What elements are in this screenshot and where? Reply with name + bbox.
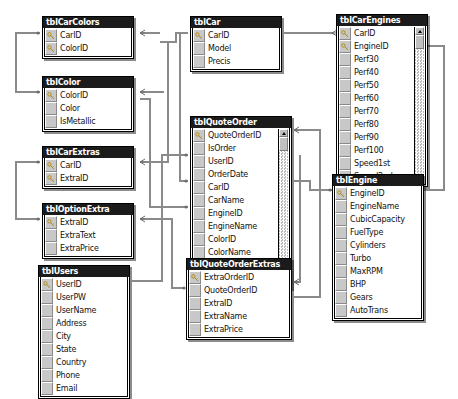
entity-field-tblUsers-UserPW[interactable]: UserPW [41,291,127,304]
entity-field-tblEngine-BHP[interactable]: BHP [335,278,421,291]
entity-field-tblColor-IsMetallic[interactable]: IsMetallic [45,115,131,128]
entity-field-tblQuoteOrderExtras-ExtraPrice[interactable]: ExtraPrice [189,323,289,336]
field-selector-gutter [41,291,53,304]
scroll-up-button[interactable] [279,129,288,137]
entity-field-tblCarEngines-Perf30[interactable]: Perf30 [339,53,415,66]
entity-field-tblQuoteOrder-UserID[interactable]: UserID [193,155,279,168]
entity-field-tblUsers-Country[interactable]: Country [41,356,127,369]
entity-field-tblOptionExtra-ExtraID[interactable]: ExtraID [45,216,131,229]
entity-field-tblEngine-EngineID[interactable]: EngineID [335,187,421,200]
entity-field-tblCarEngines-EngineID[interactable]: EngineID [339,40,415,53]
entity-field-tblUsers-Address[interactable]: Address [41,317,127,330]
entity-field-tblCarEngines-Perf60[interactable]: Perf60 [339,92,415,105]
entity-field-tblCarEngines-Perf50[interactable]: Perf50 [339,79,415,92]
entity-field-tblQuoteOrderExtras-ExtraName[interactable]: ExtraName [189,310,289,323]
entity-field-tblQuoteOrderExtras-ExtraOrderID[interactable]: ExtraOrderID [189,271,289,284]
entity-table-title-tblEngine: tblEngine [333,175,423,186]
scrollbar-track[interactable] [279,137,288,277]
entity-table-tblOptionExtra[interactable]: tblOptionExtra ExtraID ExtraText ExtraPr… [42,203,134,259]
entity-field-label-Perf60: Perf60 [354,94,379,103]
entity-field-label-Perf100: Perf100 [354,146,383,155]
entity-field-tblCar-CarID[interactable]: CarID [193,29,279,42]
entity-table-title-tblCar: tblCar [191,17,281,28]
scroll-up-button[interactable] [415,27,424,35]
entity-field-tblOptionExtra-ExtraPrice[interactable]: ExtraPrice [45,242,131,255]
entity-field-tblQuoteOrder-CarName[interactable]: CarName [193,194,279,207]
link-carextras-to-car [140,42,168,162]
entity-table-fields-tblCarEngines: CarID EngineID Perf30 Perf40 Perf50 Perf… [338,26,426,185]
entity-field-tblEngine-EngineName[interactable]: EngineName [335,200,421,213]
entity-table-tblUsers[interactable]: tblUsers UserID UserPW UserName Address … [38,265,130,399]
field-selector-gutter [193,220,205,233]
entity-field-tblEngine-MaxRPM[interactable]: MaxRPM [335,265,421,278]
entity-field-tblUsers-UserID[interactable]: UserID [41,278,127,291]
scrollbar-thumb[interactable] [415,35,424,49]
entity-table-title-tblUsers: tblUsers [39,266,129,277]
link-car-carcolors-left [16,33,40,92]
entity-field-tblColor-Color[interactable]: Color [45,102,131,115]
entity-field-tblUsers-State[interactable]: State [41,343,127,356]
entity-field-tblUsers-UserName[interactable]: UserName [41,304,127,317]
entity-table-tblColor[interactable]: tblColor ColorID Color IsMetallic [42,76,134,132]
entity-field-label-ExtraID: ExtraID [60,218,88,227]
entity-field-tblCarExtras-CarID[interactable]: CarID [45,159,131,172]
entity-table-tblCarColors[interactable]: tblCarColors CarID ColorID [42,16,134,59]
entity-field-tblEngine-Cylinders[interactable]: Cylinders [335,239,421,252]
entity-field-tblQuoteOrder-OrderDate[interactable]: OrderDate [193,168,279,181]
entity-field-tblQuoteOrder-CarID[interactable]: CarID [193,181,279,194]
primary-key-icon [191,274,199,282]
entity-field-tblCarEngines-Perf40[interactable]: Perf40 [339,66,415,79]
entity-field-tblUsers-City[interactable]: City [41,330,127,343]
entity-field-tblCarExtras-ExtraID[interactable]: ExtraID [45,172,131,185]
field-selector-gutter [193,142,205,155]
entity-field-tblQuoteOrderExtras-ExtraID[interactable]: ExtraID [189,297,289,310]
entity-field-label-State: State [56,345,76,354]
entity-field-label-UserID: UserID [208,157,234,166]
scrollbar-track[interactable] [415,35,424,175]
entity-field-tblCar-Model[interactable]: Model [193,42,279,55]
primary-key-icon [43,281,51,289]
entity-field-tblEngine-Gears[interactable]: Gears [335,291,421,304]
field-selector-gutter [335,278,347,291]
scrollbar-thumb[interactable] [279,137,288,151]
entity-field-tblQuoteOrderExtras-QuoteOrderID[interactable]: QuoteOrderID [189,284,289,297]
chevron-up-icon [282,132,286,135]
entity-field-tblCar-Precis[interactable]: Precis [193,55,279,68]
entity-field-tblCarEngines-Perf80[interactable]: Perf80 [339,118,415,131]
entity-table-title-tblCarExtras: tblCarExtras [43,147,133,158]
entity-field-tblQuoteOrder-EngineName[interactable]: EngineName [193,220,279,233]
entity-field-label-Color: Color [60,104,80,113]
entity-field-tblEngine-FuelType[interactable]: FuelType [335,226,421,239]
entity-field-tblEngine-AutoTrans[interactable]: AutoTrans [335,304,421,317]
entity-field-tblColor-ColorID[interactable]: ColorID [45,89,131,102]
entity-field-label-Speed1st: Speed1st [354,159,390,168]
entity-field-tblQuoteOrder-IsOrder[interactable]: IsOrder [193,142,279,155]
entity-field-tblQuoteOrder-ColorID[interactable]: ColorID [193,233,279,246]
entity-field-tblUsers-Email[interactable]: Email [41,382,127,395]
entity-table-tblCar[interactable]: tblCar CarID Model Precis [190,16,282,72]
entity-field-tblCarEngines-CarID[interactable]: CarID [339,27,415,40]
entity-table-tblEngine[interactable]: tblEngine EngineID EngineName CubicCapac… [332,174,424,321]
entity-field-tblCarEngines-Perf100[interactable]: Perf100 [339,144,415,157]
entity-table-tblCarExtras[interactable]: tblCarExtras CarID ExtraID [42,146,134,189]
entity-field-label-ExtraPrice: ExtraPrice [60,244,99,253]
entity-table-tblCarEngines[interactable]: tblCarEngines CarID EngineID Perf30 Perf… [336,14,428,187]
entity-field-tblQuoteOrder-EngineID[interactable]: EngineID [193,207,279,220]
entity-field-label-Model: Model [208,44,231,53]
entity-table-fields-tblUsers: UserID UserPW UserName Address City Stat… [40,277,128,397]
entity-field-tblCarEngines-Perf70[interactable]: Perf70 [339,105,415,118]
entity-table-fields-tblEngine: EngineID EngineName CubicCapacity FuelTy… [334,186,422,319]
entity-field-tblCarColors-ColorID[interactable]: ColorID [45,42,131,55]
one-marker-f [184,153,187,156]
entity-field-tblEngine-Turbo[interactable]: Turbo [335,252,421,265]
field-selector-gutter [41,343,53,356]
entity-field-tblQuoteOrder-QuoteOrderID[interactable]: QuoteOrderID [193,129,279,142]
entity-field-tblOptionExtra-ExtraText[interactable]: ExtraText [45,229,131,242]
entity-field-tblCarEngines-Perf90[interactable]: Perf90 [339,131,415,144]
entity-table-tblQuoteOrderExtras[interactable]: tblQuoteOrderExtras ExtraOrderID QuoteOr… [186,258,292,340]
entity-field-tblEngine-CubicCapacity[interactable]: CubicCapacity [335,213,421,226]
field-list-scrollbar[interactable] [414,27,424,183]
entity-field-tblCarEngines-Speed1st[interactable]: Speed1st [339,157,415,170]
entity-field-tblUsers-Phone[interactable]: Phone [41,369,127,382]
entity-field-tblCarColors-CarID[interactable]: CarID [45,29,131,42]
